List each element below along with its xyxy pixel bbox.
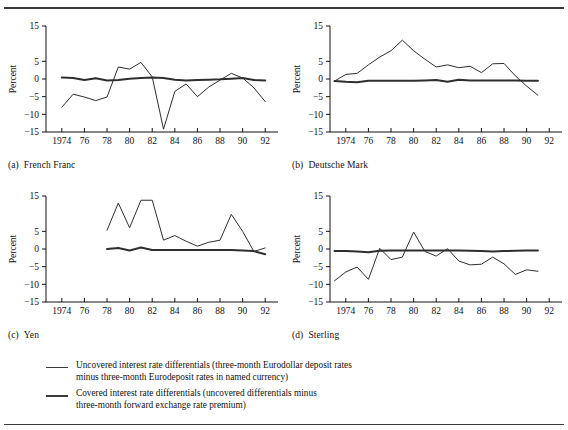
x-tick-label: 88 [499,136,509,146]
chart-svg-b: 1550−5−10−151974767880828486889092Percen… [284,12,568,162]
x-tick-label: 80 [409,306,419,316]
x-tick-label: 76 [80,136,90,146]
y-tick-label: −10 [24,110,39,120]
y-tick-label: 5 [34,227,39,237]
y-tick-label: −10 [24,280,39,290]
y-axis-title: Percent [8,64,18,93]
x-tick-label: 90 [238,136,248,146]
y-tick-label: 15 [314,21,324,31]
x-tick-label: 76 [364,306,374,316]
x-tick-label: 90 [238,306,248,316]
y-tick-label: −15 [308,127,323,137]
panel-label-d: Sterling [308,330,339,340]
x-tick-label: 84 [454,306,464,316]
panel-tag-d: (d) [292,330,303,340]
legend-text-uncovered: Uncovered interest rate differentials (t… [76,360,352,383]
x-tick-label: 92 [544,136,554,146]
panel-caption-b: (b)Deutsche Mark [292,160,368,170]
y-tick-label: 5 [318,57,323,67]
x-tick-label: 86 [477,136,487,146]
panel-caption-d: (d)Sterling [292,330,339,340]
y-axis-title: Percent [8,234,18,263]
y-tick-label: 0 [318,244,323,254]
legend-entry-uncovered: Uncovered interest rate differentials (t… [46,360,546,383]
panel-tag-c: (c) [8,330,19,340]
chart-panel-french-franc: 1550−5−10−151974767880828486889092Percen… [0,12,284,184]
panel-tag-b: (b) [292,160,303,170]
x-tick-label: 82 [431,306,441,316]
x-tick-label: 78 [386,306,396,316]
y-tick-label: −5 [29,262,39,272]
y-axis-title: Percent [292,234,302,263]
y-tick-label: 15 [30,21,40,31]
chart-svg-d: 1550−5−10−151974767880828486889092Percen… [284,182,568,332]
x-tick-label: 86 [193,136,203,146]
y-tick-label: −5 [313,262,323,272]
x-tick-label: 92 [260,306,270,316]
legend-text-covered-line1: Covered interest rate differentials (unc… [76,388,317,400]
panel-label-c: Yen [24,330,39,340]
y-tick-label: 0 [34,244,39,254]
chart-panel-sterling: 1550−5−10−151974767880828486889092Percen… [284,182,568,354]
y-tick-label: −10 [308,110,323,120]
y-tick-label: 15 [314,191,324,201]
figure-top-rule [4,7,564,9]
y-axis-title: Percent [292,64,302,93]
y-tick-label: 5 [34,57,39,67]
x-tick-label: 82 [147,306,157,316]
x-tick-label: 76 [80,306,90,316]
x-tick-label: 88 [215,306,225,316]
chart-svg-c: 1550−5−10−151974767880828486889092Percen… [0,182,284,332]
x-tick-label: 92 [544,306,554,316]
series-line-uncovered [62,62,265,129]
series-line-uncovered [335,232,538,281]
y-tick-label: −15 [24,127,39,137]
x-tick-label: 78 [102,136,112,146]
x-tick-label: 88 [215,136,225,146]
panel-label-a: French Franc [24,160,76,170]
legend-text-uncovered-line2: minus three-month Eurodeposit rates in n… [76,372,352,384]
x-tick-label: 1974 [336,136,355,146]
x-tick-label: 88 [499,306,509,316]
series-line-covered [335,250,538,252]
y-tick-label: −15 [308,297,323,307]
x-tick-label: 78 [386,136,396,146]
x-tick-label: 80 [125,306,135,316]
x-tick-label: 86 [477,306,487,316]
chart-svg-a: 1550−5−10−151974767880828486889092Percen… [0,12,284,162]
chart-panel-deutsche-mark: 1550−5−10−151974767880828486889092Percen… [284,12,568,184]
x-tick-label: 80 [409,136,419,146]
series-line-uncovered [107,200,265,251]
x-tick-label: 84 [170,136,180,146]
x-tick-label: 78 [102,306,112,316]
figure-bottom-rule [4,424,564,425]
y-tick-label: −15 [24,297,39,307]
panel-label-b: Deutsche Mark [308,160,368,170]
series-line-covered [62,78,265,81]
legend-text-covered-line2: three-month forward exchange rate premiu… [76,400,317,412]
x-tick-label: 80 [125,136,135,146]
legend-line-icon-uncovered [46,367,68,368]
x-tick-label: 92 [260,136,270,146]
figure-legend: Uncovered interest rate differentials (t… [46,360,546,416]
chart-panel-yen: 1550−5−10−151974767880828486889092Percen… [0,182,284,354]
x-tick-label: 90 [522,136,532,146]
x-tick-label: 82 [431,136,441,146]
y-tick-label: 15 [30,191,40,201]
panel-caption-a: (a)French Franc [8,160,75,170]
series-line-uncovered [335,40,538,95]
x-tick-label: 1974 [52,136,71,146]
y-tick-label: 0 [34,74,39,84]
panel-caption-c: (c)Yen [8,330,39,340]
x-tick-label: 84 [170,306,180,316]
y-tick-label: 5 [318,227,323,237]
figure-panel-grid: 1550−5−10−151974767880828486889092Percen… [0,0,568,430]
panel-tag-a: (a) [8,160,19,170]
y-tick-label: 0 [318,74,323,84]
series-line-covered [107,248,265,255]
legend-text-covered: Covered interest rate differentials (unc… [76,388,317,411]
series-line-covered [335,80,538,82]
legend-entry-covered: Covered interest rate differentials (unc… [46,388,546,411]
x-tick-label: 82 [147,136,157,146]
y-tick-label: −5 [29,92,39,102]
